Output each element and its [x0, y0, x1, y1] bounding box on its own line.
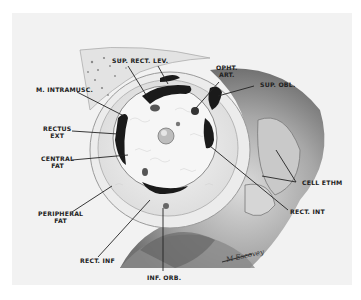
infraorbital-vessel [163, 203, 169, 209]
label-m-intramusc: M. INTRAMUSC. [36, 86, 93, 93]
label-opht-art-line1: OPHT. [216, 64, 238, 71]
label-central-fat-line2: FAT [41, 162, 74, 169]
label-central-fat: CENTRAL FAT [41, 155, 74, 169]
label-lev: LEV. [153, 57, 168, 64]
label-inf-orb: INF. ORB. [147, 274, 181, 281]
small-vessel [176, 122, 180, 126]
label-cell-ethm: CELL ETHM [302, 179, 342, 186]
label-peripheral-fat: PERIPHERAL FAT [38, 210, 83, 224]
vessel-2 [142, 168, 148, 176]
label-opht-art: OPHT. ART. [216, 64, 238, 78]
ophthalmic-artery [191, 107, 199, 115]
label-rect-int: RECT. INT [290, 208, 325, 215]
orbit-section-drawing [0, 0, 361, 300]
label-rectus-ext-line1: RECTUS [43, 125, 71, 132]
label-rectus-ext: RECTUS EXT [43, 125, 71, 139]
label-sup-rect: SUP. RECT. [112, 57, 151, 64]
vessel-1 [150, 105, 160, 112]
label-rect-inf: RECT. INF [80, 257, 115, 264]
label-peripheral-fat-line1: PERIPHERAL [38, 210, 83, 217]
label-peripheral-fat-line2: FAT [38, 217, 83, 224]
optic-nerve [158, 128, 174, 144]
label-rectus-ext-line2: EXT [43, 132, 71, 139]
label-opht-art-line2: ART. [216, 71, 238, 78]
label-sup-obl: SUP. OBL. [260, 81, 295, 88]
label-central-fat-line1: CENTRAL [41, 155, 74, 162]
